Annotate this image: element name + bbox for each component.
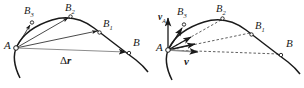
vector-a-to-b3 bbox=[16, 25, 30, 48]
point-marker-b1-left bbox=[98, 31, 101, 34]
label-point-b-left: B bbox=[133, 37, 140, 48]
point-marker-a-right bbox=[166, 48, 171, 53]
label-velocity-va: vA bbox=[158, 13, 166, 25]
point-marker-b3-right bbox=[182, 23, 185, 26]
label-point-b-right: B bbox=[286, 38, 293, 49]
point-marker-b-right bbox=[279, 53, 282, 56]
label-point-b1-left: B1 bbox=[103, 19, 113, 32]
label-point-b3-left: B3 bbox=[24, 6, 34, 19]
vector-a-to-b-delta-r bbox=[16, 48, 126, 52]
label-point-b2-right: B2 bbox=[216, 4, 226, 17]
point-marker-a-left bbox=[14, 46, 19, 51]
displacement-panel-graphics bbox=[14, 15, 148, 78]
label-displacement-delta-r: Δr bbox=[60, 55, 71, 66]
point-marker-b3-left bbox=[30, 21, 33, 24]
label-point-b2-left: B2 bbox=[65, 3, 75, 16]
figure-canvas bbox=[0, 0, 304, 88]
point-marker-b2-right bbox=[221, 17, 224, 20]
label-point-b3-right: B3 bbox=[177, 7, 187, 20]
point-marker-b-left bbox=[127, 51, 130, 54]
trajectory-curve-right bbox=[166, 20, 300, 80]
label-point-a-right: A bbox=[156, 42, 163, 53]
physics-figure-displacement-velocity: A B3 B2 B1 B Δr A vA B3 B2 B1 B v bbox=[0, 0, 304, 88]
label-point-b1-right: B1 bbox=[255, 21, 265, 34]
label-velocity-limit-v: v bbox=[184, 56, 189, 67]
velocity-panel-graphics bbox=[166, 17, 300, 80]
point-marker-b1-right bbox=[250, 33, 253, 36]
label-point-a-left: A bbox=[4, 40, 11, 51]
vector-a-to-b1 bbox=[16, 31, 97, 48]
vector-a-to-b2 bbox=[16, 18, 68, 48]
trajectory-curve-left bbox=[14, 18, 148, 78]
